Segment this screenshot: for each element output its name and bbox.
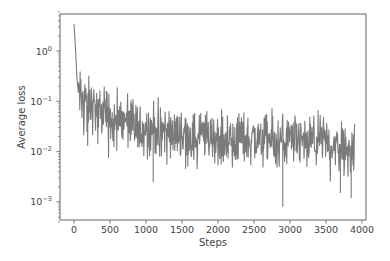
x-tick-label: 0	[71, 224, 77, 235]
plot-area	[74, 24, 355, 207]
loss-line	[74, 24, 355, 207]
x-tick-label: 2500	[242, 224, 266, 235]
x-tick-label: 500	[101, 224, 119, 235]
x-tick-label: 1500	[170, 224, 194, 235]
x-tick-label: 2000	[206, 224, 230, 235]
x-axis-label: Steps	[199, 237, 227, 248]
y-tick-label: 100	[36, 45, 52, 57]
y-tick-label: 10−2	[30, 145, 52, 157]
y-axis-ticks: 10010−110−210−3	[30, 12, 60, 222]
y-tick-label: 10−3	[30, 195, 52, 207]
x-tick-label: 3000	[278, 224, 302, 235]
x-tick-label: 1000	[134, 224, 158, 235]
x-tick-label: 3500	[314, 224, 338, 235]
loss-chart: 05001000150020002500300035004000 10010−1…	[0, 0, 390, 261]
x-tick-label: 4000	[350, 224, 374, 235]
x-axis-ticks: 05001000150020002500300035004000	[71, 220, 374, 235]
y-tick-label: 10−1	[30, 95, 52, 107]
y-axis-label: Average loss	[16, 85, 27, 149]
